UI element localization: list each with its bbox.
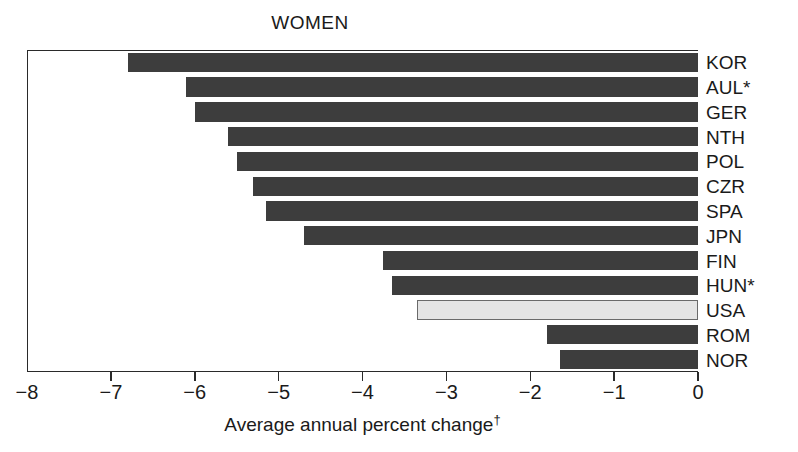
bar-row <box>27 226 698 245</box>
bar-row <box>27 53 698 72</box>
category-label-usa: USA <box>706 301 745 320</box>
x-tick-label: −4 <box>351 381 374 404</box>
bar-spa[interactable] <box>266 201 698 220</box>
x-axis-title: Average annual percent change† <box>27 412 698 436</box>
x-tick-label: −7 <box>99 381 122 404</box>
bar-row <box>27 350 698 369</box>
bar-row <box>27 201 698 220</box>
x-tick-label: −2 <box>519 381 542 404</box>
x-tick-label: −3 <box>435 381 458 404</box>
x-axis-tick-labels: −8−7−6−5−4−3−2−10 <box>0 381 798 409</box>
category-label-ger: GER <box>706 103 747 122</box>
category-label-spa: SPA <box>706 202 743 221</box>
bar-row <box>27 102 698 121</box>
bar-row <box>27 325 698 344</box>
bar-fin[interactable] <box>383 251 698 270</box>
category-label-jpn: JPN <box>706 227 742 246</box>
category-label-nor: NOR <box>706 351 748 370</box>
category-label-czr: CZR <box>706 177 745 196</box>
x-tick <box>278 372 280 381</box>
x-tick-label: −6 <box>183 381 206 404</box>
bars-layer <box>27 50 698 372</box>
category-label-fin: FIN <box>706 252 737 271</box>
bar-hun[interactable] <box>392 276 698 295</box>
bar-kor[interactable] <box>128 53 698 72</box>
x-tick-label: 0 <box>692 381 703 404</box>
bar-pol[interactable] <box>237 152 698 171</box>
category-label-nth: NTH <box>706 128 745 147</box>
bar-nor[interactable] <box>560 350 698 369</box>
bar-ger[interactable] <box>195 102 698 121</box>
chart-figure: WOMEN KORAUL*GERNTHPOLCZRSPAJPNFINHUN*US… <box>0 0 798 452</box>
bar-row <box>27 177 698 196</box>
bar-row <box>27 276 698 295</box>
bar-row <box>27 127 698 146</box>
category-label-kor: KOR <box>706 53 747 72</box>
bar-row <box>27 152 698 171</box>
bar-usa[interactable] <box>417 300 698 319</box>
category-label-aul: AUL* <box>706 78 750 97</box>
category-label-rom: ROM <box>706 326 750 345</box>
x-tick <box>613 372 615 381</box>
x-tick <box>110 372 112 381</box>
bar-aul[interactable] <box>186 77 698 96</box>
bar-rom[interactable] <box>547 325 698 344</box>
x-tick <box>697 372 699 381</box>
x-tick-label: −1 <box>603 381 626 404</box>
x-tick <box>530 372 532 381</box>
bar-row <box>27 251 698 270</box>
x-tick-label: −5 <box>267 381 290 404</box>
x-tick <box>446 372 448 381</box>
bar-nth[interactable] <box>228 127 698 146</box>
bar-czr[interactable] <box>253 177 698 196</box>
bar-jpn[interactable] <box>304 226 698 245</box>
category-label-hun: HUN* <box>706 276 755 295</box>
category-label-pol: POL <box>706 152 744 171</box>
chart-title: WOMEN <box>0 12 620 34</box>
x-axis-footnote-marker: † <box>493 412 500 427</box>
category-labels: KORAUL*GERNTHPOLCZRSPAJPNFINHUN*USAROMNO… <box>706 50 798 372</box>
x-tick <box>362 372 364 381</box>
bar-row <box>27 300 698 319</box>
bar-row <box>27 77 698 96</box>
x-tick <box>194 372 196 381</box>
x-axis-title-text: Average annual percent change <box>224 414 493 435</box>
x-tick-label: −8 <box>16 381 39 404</box>
